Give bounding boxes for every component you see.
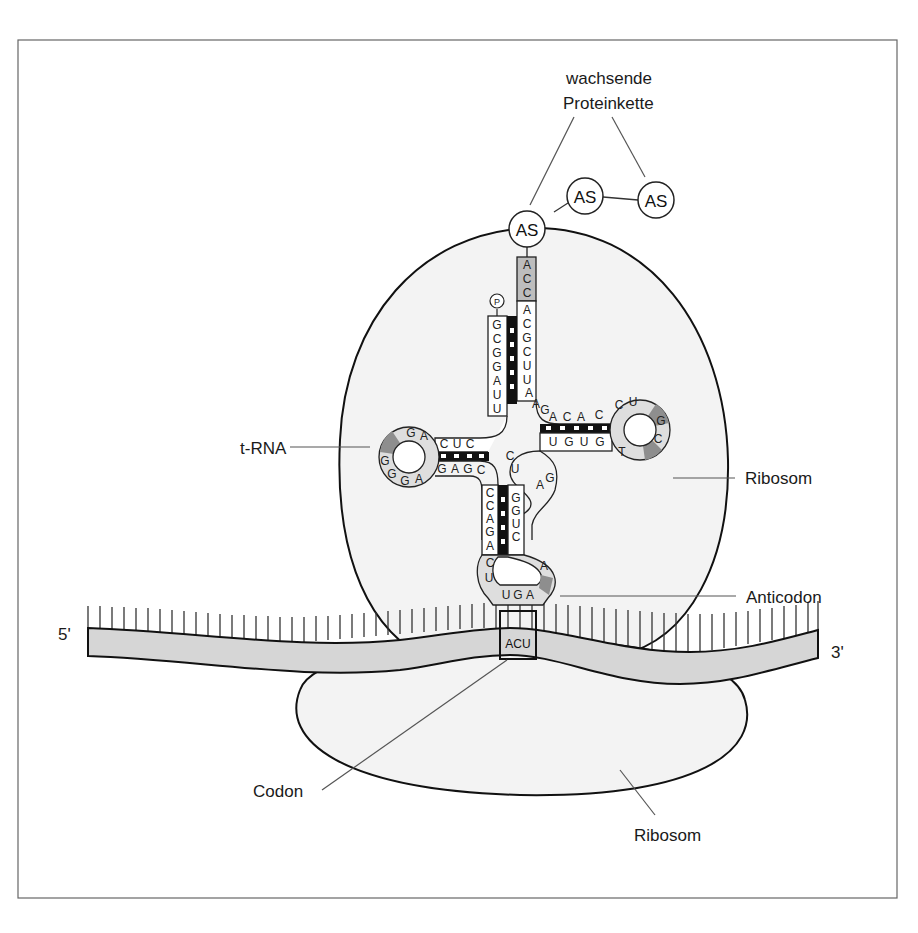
- svg-text:U: U: [493, 402, 502, 416]
- svg-text:U: U: [453, 437, 462, 451]
- svg-text:C: C: [466, 437, 475, 451]
- svg-text:G: G: [387, 467, 396, 481]
- svg-text:C: C: [486, 499, 495, 513]
- svg-text:C: C: [493, 332, 502, 346]
- svg-text:G: G: [564, 435, 573, 449]
- svg-text:C: C: [512, 530, 521, 544]
- svg-text:A: A: [415, 472, 423, 486]
- svg-text:C: C: [615, 398, 624, 412]
- svg-text:U: U: [523, 373, 532, 387]
- svg-text:A: A: [532, 397, 540, 411]
- svg-text:A: A: [577, 410, 585, 424]
- svg-text:U: U: [493, 388, 502, 402]
- anticodon-label: Anticodon: [746, 588, 822, 607]
- svg-text:A: A: [523, 258, 531, 272]
- svg-text:U: U: [549, 435, 558, 449]
- protein-chain-label-line1: wachsende: [565, 69, 652, 88]
- svg-text:U: U: [523, 359, 532, 373]
- svg-text:U: U: [485, 571, 494, 585]
- svg-text:G: G: [492, 318, 501, 332]
- svg-text:G: G: [492, 346, 501, 360]
- phosphate-label: P: [494, 297, 500, 307]
- svg-text:G: G: [511, 491, 520, 505]
- anticodon-base-2: G: [513, 588, 522, 602]
- svg-text:G: G: [380, 454, 389, 468]
- svg-text:A: A: [486, 539, 494, 553]
- svg-text:A: A: [486, 512, 494, 526]
- svg-text:C: C: [486, 556, 495, 570]
- svg-text:G: G: [656, 414, 665, 428]
- svg-text:C: C: [523, 317, 532, 331]
- svg-text:U: U: [580, 435, 589, 449]
- svg-text:A: A: [549, 410, 557, 424]
- svg-text:G: G: [522, 331, 531, 345]
- svg-text:G: G: [463, 462, 472, 476]
- svg-text:C: C: [440, 437, 449, 451]
- svg-text:G: G: [545, 471, 554, 485]
- amino-acid-2: AS: [574, 188, 597, 207]
- svg-text:G: G: [492, 360, 501, 374]
- amino-acid-1: AS: [516, 221, 539, 240]
- svg-text:C: C: [563, 410, 572, 424]
- svg-text:C: C: [506, 449, 515, 463]
- svg-text:C: C: [595, 408, 604, 422]
- svg-text:C: C: [523, 286, 532, 300]
- five-prime-label: 5': [58, 625, 71, 644]
- codon-label: Codon: [253, 782, 303, 801]
- svg-text:A: A: [523, 303, 531, 317]
- svg-text:C: C: [523, 272, 532, 286]
- svg-text:U: U: [629, 395, 638, 409]
- svg-text:T: T: [618, 445, 626, 459]
- amino-acid-3: AS: [645, 192, 668, 211]
- svg-text:G: G: [406, 426, 415, 440]
- anticodon-base-3: A: [526, 588, 534, 602]
- svg-text:U: U: [511, 462, 520, 476]
- svg-text:A: A: [540, 559, 548, 573]
- svg-text:G: G: [400, 474, 409, 488]
- trna-translation-diagram: ACU 5' 3' wachsende Proteinkette t-RNA R…: [0, 0, 918, 933]
- ribosome-small-label: Ribosom: [634, 826, 701, 845]
- svg-text:A: A: [420, 429, 428, 443]
- svg-text:C: C: [654, 432, 663, 446]
- svg-text:G: G: [511, 504, 520, 518]
- ribosome-large-label: Ribosom: [745, 469, 812, 488]
- codon-sequence: ACU: [505, 637, 530, 651]
- svg-text:G: G: [485, 525, 494, 539]
- svg-text:A: A: [536, 478, 544, 492]
- svg-text:G: G: [437, 462, 446, 476]
- svg-text:C: C: [523, 345, 532, 359]
- three-prime-label: 3': [831, 643, 844, 662]
- svg-text:U: U: [512, 517, 521, 531]
- svg-text:C: C: [486, 486, 495, 500]
- svg-text:C: C: [477, 463, 486, 477]
- svg-text:G: G: [595, 435, 604, 449]
- anticodon-base-1: U: [502, 588, 511, 602]
- trna-label: t-RNA: [240, 439, 287, 458]
- svg-text:A: A: [451, 462, 459, 476]
- protein-chain-label-line2: Proteinkette: [563, 94, 654, 113]
- svg-text:A: A: [493, 374, 501, 388]
